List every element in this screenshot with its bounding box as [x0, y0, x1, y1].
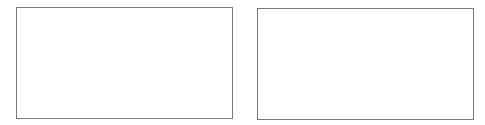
empty-panel-left — [16, 7, 233, 119]
canvas — [0, 0, 485, 125]
empty-panel-right — [257, 8, 474, 120]
